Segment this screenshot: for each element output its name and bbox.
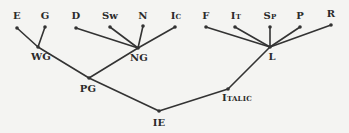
label-l: L — [268, 51, 275, 62]
node-dot-n — [141, 24, 145, 28]
label-g: G — [41, 10, 50, 21]
node-dot-sw — [108, 25, 112, 29]
edge-f-l — [206, 27, 270, 47]
edge-ic-ng — [138, 27, 175, 48]
node-dot-ng — [136, 46, 140, 50]
edge-pg-ie — [89, 78, 159, 111]
label-ie: IE — [153, 117, 166, 128]
label-f: F — [202, 10, 209, 21]
label-p: P — [296, 10, 304, 21]
node-dot-italic — [226, 87, 230, 91]
node-dot-e — [15, 26, 19, 30]
edge-d-ng — [76, 28, 138, 48]
edge-sw-ng — [110, 27, 138, 48]
node-dot-ie — [157, 109, 161, 113]
edge-italic-ie — [159, 89, 228, 111]
label-ng: NG — [130, 52, 148, 63]
node-dot-d — [74, 26, 78, 30]
node-dot-ic — [173, 25, 177, 29]
label-pg: PG — [80, 83, 96, 94]
node-dot-l — [268, 45, 272, 49]
label-it: It — [231, 10, 241, 21]
label-d: D — [72, 10, 81, 21]
label-wg: WG — [31, 51, 51, 62]
edge-l-italic — [228, 47, 270, 89]
label-sp: Sp — [264, 10, 277, 21]
label-ic: Ic — [171, 10, 182, 21]
label-italic: Italic — [222, 92, 252, 103]
node-dot-wg — [36, 45, 40, 49]
edge-e-wg — [17, 28, 38, 47]
node-dot-it — [233, 25, 237, 29]
edge-g-wg — [38, 27, 45, 47]
label-n: N — [138, 10, 147, 21]
node-dot-g — [43, 25, 47, 29]
node-dot-sp — [268, 25, 272, 29]
label-sw: Sw — [102, 10, 118, 21]
label-r: R — [327, 8, 336, 19]
node-dot-pg — [87, 76, 91, 80]
node-dot-p — [298, 25, 302, 29]
label-e: E — [13, 10, 21, 21]
node-dot-r — [329, 23, 333, 27]
node-dot-f — [204, 25, 208, 29]
